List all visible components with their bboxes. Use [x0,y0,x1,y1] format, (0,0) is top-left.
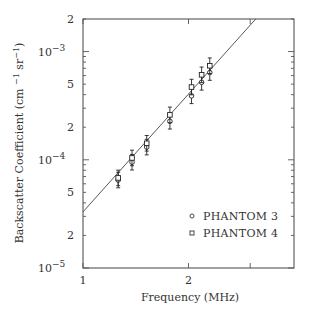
y-tick-label: 2 [67,121,74,134]
y-tick-exponent: −5 [52,259,66,269]
square-marker-icon [199,73,204,78]
square-marker-icon [190,231,194,235]
y-axis-title-part: sr [13,58,26,73]
y-tick-exponent: −4 [52,151,66,161]
square-marker-icon [207,63,212,68]
circle-marker-icon [190,214,194,218]
y-tick-label: 5 [67,78,74,91]
superscript: −1 [12,47,21,59]
y-tick-label: 2 [67,13,74,26]
x-axis-ticks: 12 [80,19,251,287]
y-tick-label: 10−4 [38,151,66,167]
y-axis-title: Backscatter Coefficient (cm −1 sr−1) [12,43,26,244]
superscript: −1 [12,73,21,85]
legend-item-phantom-4: PHANTOM 4 [190,227,278,240]
square-marker-icon [130,156,135,161]
y-tick-label: 2 [67,229,74,242]
legend: PHANTOM 3 PHANTOM 4 [190,210,278,240]
y-tick-label: 10−5 [38,259,66,275]
chart: 210−35210−45210−5 12 PHANTOM 3 PHANTOM 4… [0,0,311,322]
y-tick-label: 10−3 [38,43,66,59]
y-axis-title-part: ) [13,43,26,47]
x-axis-title: Frequency (MHz) [141,291,239,304]
x-tick-label: 1 [80,274,87,287]
square-marker-icon [116,176,121,181]
y-tick-exponent: −3 [52,43,66,53]
x-tick-label: 2 [185,274,192,287]
legend-label: PHANTOM 3 [203,210,278,223]
data-points [116,58,212,188]
legend-item-phantom-3: PHANTOM 3 [190,210,278,223]
square-marker-icon [144,141,149,146]
legend-label: PHANTOM 4 [203,227,278,240]
y-tick-label: 5 [67,186,74,199]
square-marker-icon [168,113,173,118]
square-marker-icon [189,85,194,90]
